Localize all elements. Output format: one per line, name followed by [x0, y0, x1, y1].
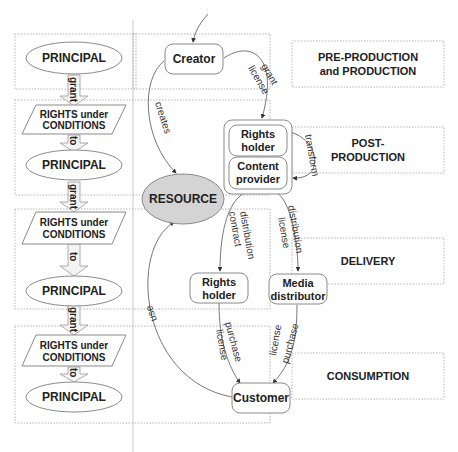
svg-text:holder: holder: [202, 289, 236, 301]
svg-text:to: to: [68, 136, 79, 145]
svg-text:Content: Content: [237, 160, 279, 172]
svg-text:Rights: Rights: [202, 276, 236, 288]
stage-label: PRE-PRODUCTION: [318, 51, 418, 63]
principal-node-3: PRINCIPAL: [26, 276, 122, 306]
stage-consumption: CONSUMPTION: [292, 353, 444, 399]
svg-text:to: to: [68, 368, 79, 377]
svg-text:provider: provider: [236, 173, 281, 185]
svg-text:RIGHTS under: RIGHTS under: [40, 217, 108, 228]
svg-text:Customer: Customer: [233, 391, 289, 405]
svg-text:distributor: distributor: [271, 290, 327, 302]
stage-label: POST-: [351, 137, 384, 149]
to-arrow-2: to: [60, 244, 88, 276]
svg-text:CONDITIONS: CONDITIONS: [43, 352, 106, 363]
rights-node-3: RIGHTS under CONDITIONS: [22, 335, 126, 366]
svg-text:PRINCIPAL: PRINCIPAL: [42, 390, 106, 404]
rights-holder-delivery-node: Rights holder: [190, 273, 248, 303]
customer-node: Customer: [232, 383, 290, 413]
svg-text:RIGHTS under: RIGHTS under: [40, 109, 108, 120]
creator-node: Creator: [165, 44, 223, 74]
svg-text:PRINCIPAL: PRINCIPAL: [42, 284, 106, 298]
svg-text:Rights: Rights: [241, 128, 275, 140]
to-arrow-1: to: [60, 135, 88, 152]
svg-text:PRINCIPAL: PRINCIPAL: [42, 158, 106, 172]
principal-node-1: PRINCIPAL: [26, 42, 122, 74]
svg-text:RIGHTS under: RIGHTS under: [40, 340, 108, 351]
stage-label: PRODUCTION: [331, 151, 405, 163]
stage-label: CONSUMPTION: [327, 370, 410, 382]
principal-node-2: PRINCIPAL: [26, 150, 122, 180]
media-distributor-node: Media distributor: [269, 274, 327, 304]
rights-node-1: RIGHTS under CONDITIONS: [22, 105, 126, 134]
svg-text:RESOURCE: RESOURCE: [149, 192, 217, 206]
svg-text:holder: holder: [241, 141, 275, 153]
rights-holder-content-provider-group: Rights holder Content provider: [224, 120, 292, 194]
grant-arrow-1: grant: [60, 75, 88, 106]
to-arrow-3: to: [60, 367, 88, 382]
stage-preproduction: PRE-PRODUCTION and PRODUCTION: [292, 41, 444, 87]
svg-text:CONDITIONS: CONDITIONS: [43, 229, 106, 240]
svg-text:grant: grant: [68, 307, 79, 333]
svg-text:grant: grant: [68, 77, 79, 103]
edge-label-use: use: [143, 304, 159, 323]
resource-node: RESOURCE: [142, 174, 224, 224]
edge-into-creator: [193, 14, 208, 42]
svg-text:Creator: Creator: [173, 52, 216, 66]
stage-label: DELIVERY: [341, 255, 396, 267]
principal-node-4: PRINCIPAL: [26, 382, 122, 412]
svg-text:CONDITIONS: CONDITIONS: [43, 120, 106, 131]
stage-label: and PRODUCTION: [320, 65, 417, 77]
svg-text:PRINCIPAL: PRINCIPAL: [42, 51, 106, 65]
edge-label-creates: creates: [153, 100, 174, 135]
edge-label-license: license: [267, 323, 283, 356]
grant-arrow-2: grant: [60, 182, 88, 212]
svg-text:to: to: [68, 252, 79, 261]
rights-node-2: RIGHTS under CONDITIONS: [22, 212, 126, 244]
svg-text:Media: Media: [282, 277, 314, 289]
svg-text:grant: grant: [68, 184, 79, 210]
rights-lifecycle-diagram: PRE-PRODUCTION and PRODUCTION POST- PROD…: [0, 0, 458, 452]
